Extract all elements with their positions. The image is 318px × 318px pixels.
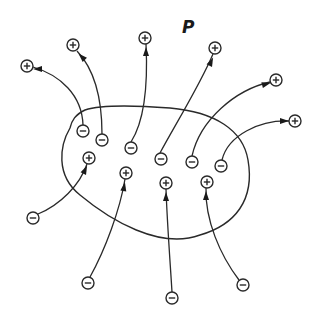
positive-charge-icon — [289, 115, 301, 127]
negative-charge-icon — [166, 292, 178, 304]
negative-charge-icon — [77, 125, 89, 137]
positive-charge-icon — [120, 167, 132, 179]
positive-charge-icon — [160, 177, 172, 189]
field-lines-diagram: P — [0, 0, 318, 318]
arrowhead-icon — [163, 192, 169, 201]
field-line — [131, 44, 147, 142]
positive-charge-icon — [209, 42, 221, 54]
arrowhead-icon — [203, 191, 209, 200]
positive-charge-icon — [139, 32, 151, 44]
positive-charge-icon — [21, 60, 33, 72]
field-line — [160, 54, 213, 153]
negative-charge-icon — [96, 134, 108, 146]
positive-charge-icon — [83, 152, 95, 164]
field-line — [90, 179, 125, 277]
field-line — [77, 51, 102, 134]
arrowhead-icon — [143, 47, 149, 56]
point-label-p: P — [182, 17, 195, 37]
negative-charge-icon — [82, 277, 94, 289]
positive-charge-icon — [201, 176, 213, 188]
arrowhead-icon — [81, 164, 90, 175]
field-line — [166, 189, 172, 292]
positive-charge-icon — [270, 74, 282, 86]
negative-charge-icon — [155, 153, 167, 165]
negative-charge-icon — [237, 279, 249, 291]
field-line — [206, 188, 239, 280]
negative-charge-icon — [186, 156, 198, 168]
negative-charge-icon — [27, 212, 39, 224]
arrowhead-icon — [280, 118, 289, 124]
field-line — [192, 82, 270, 156]
negative-charge-icon — [125, 142, 137, 154]
field-lines-group — [33, 44, 289, 292]
negative-charge-icon — [215, 160, 227, 172]
positive-charge-icon — [67, 39, 79, 51]
field-line — [222, 121, 289, 160]
field-line — [38, 164, 87, 214]
